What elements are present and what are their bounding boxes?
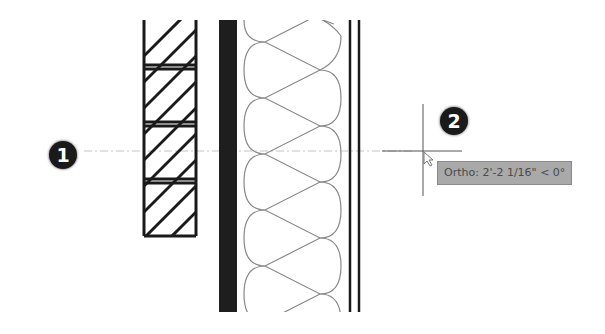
callout-label: 1	[56, 144, 69, 166]
pointer-arrow-icon	[424, 152, 433, 166]
callout-label: 2	[447, 110, 460, 132]
ortho-dimension-tooltip: Ortho: 2'-2 1/16" < 0°	[437, 161, 572, 185]
batt-insulation	[244, 10, 341, 322]
callout-badge-2: 2	[440, 107, 468, 135]
brick-veneer	[120, 0, 200, 314]
gypsum-board	[350, 20, 359, 312]
tooltip-text: Ortho: 2'-2 1/16" < 0°	[444, 166, 565, 179]
callout-badge-1: 1	[49, 141, 77, 169]
sheathing-layer	[219, 20, 237, 312]
